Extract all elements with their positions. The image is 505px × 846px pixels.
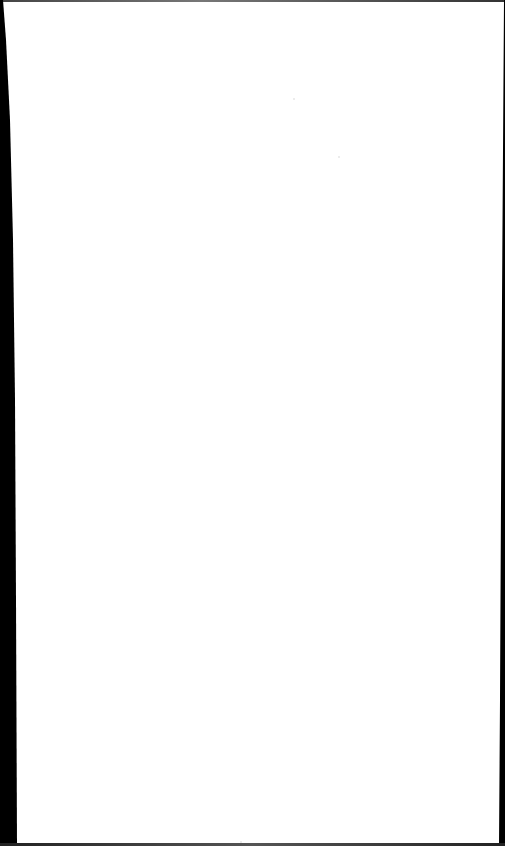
scan-left-shadow (0, 0, 30, 846)
scan-speck (338, 156, 340, 158)
scan-right-shadow (493, 0, 505, 846)
blank-scanned-page (0, 0, 505, 846)
scan-speck (293, 98, 295, 100)
scan-top-edge (0, 0, 505, 2)
